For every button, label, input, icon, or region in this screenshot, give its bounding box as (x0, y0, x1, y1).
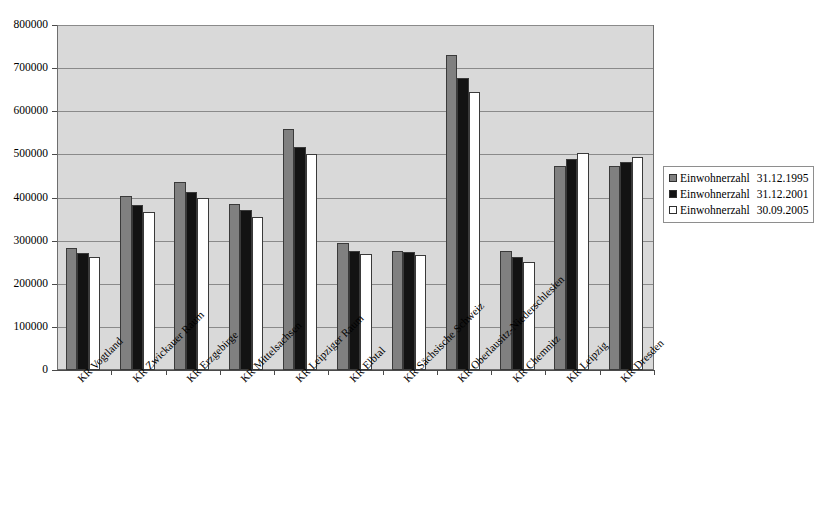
bar-chart: 0100000200000300000400000500000600000700… (0, 0, 834, 515)
bar (197, 198, 209, 370)
x-axis-tick-mark (111, 371, 112, 375)
legend-item: Einwohnerzahl 31.12.2001 (669, 186, 808, 202)
x-axis-tick-mark (600, 371, 601, 375)
bar (186, 192, 198, 370)
legend-date-2005: 30.09.2005 (757, 204, 809, 216)
y-axis-tick-label: 500000 (14, 148, 49, 159)
x-axis-tick-mark (437, 371, 438, 375)
x-axis-tick-mark (274, 371, 275, 375)
x-axis-tick-mark (166, 371, 167, 375)
bar (566, 159, 578, 370)
y-axis-tick-label: 800000 (14, 19, 49, 30)
bar (294, 147, 306, 370)
x-axis-tick-mark (654, 371, 655, 375)
legend-swatch-2001-icon (669, 190, 677, 198)
y-axis-tick-label: 600000 (14, 105, 49, 116)
bar (609, 166, 621, 370)
bar (577, 153, 589, 370)
y-axis-tick-label: 100000 (14, 321, 49, 332)
y-axis-tick-label: 0 (42, 364, 48, 375)
y-axis-tick-label: 400000 (14, 192, 49, 203)
bar (306, 154, 318, 370)
bar (240, 210, 252, 370)
y-axis-tick-label: 700000 (14, 62, 49, 73)
bar (392, 251, 404, 370)
x-axis-tick-mark (491, 371, 492, 375)
legend: Einwohnerzahl 31.12.1995 Einwohnerzahl 3… (663, 166, 814, 223)
bar (132, 205, 144, 370)
x-axis-tick-mark (383, 371, 384, 375)
legend-swatch-2005-icon (669, 206, 677, 214)
bar (337, 243, 349, 370)
bar (252, 217, 264, 370)
legend-date-1995: 31.12.1995 (757, 172, 809, 184)
bar (620, 162, 632, 370)
bar (469, 92, 481, 370)
x-axis-tick-mark (545, 371, 546, 375)
y-axis-tick-label: 300000 (14, 235, 49, 246)
x-axis-tick-mark (220, 371, 221, 375)
legend-swatch-1995-icon (669, 174, 677, 182)
legend-item: Einwohnerzahl 31.12.1995 (669, 170, 808, 186)
bar (632, 157, 644, 370)
legend-label-1995: Einwohnerzahl (680, 172, 750, 184)
legend-date-2001: 31.12.2001 (757, 188, 809, 200)
bar (403, 252, 415, 370)
legend-label-2001: Einwohnerzahl (680, 188, 750, 200)
legend-label-2005: Einwohnerzahl (680, 204, 750, 216)
bar (143, 212, 155, 370)
bar (66, 248, 78, 370)
y-axis-tick-label: 200000 (14, 278, 49, 289)
legend-item: Einwohnerzahl 30.09.2005 (669, 202, 808, 218)
bar (500, 251, 512, 370)
bar (77, 253, 89, 370)
bar (349, 251, 361, 370)
x-axis-tick-mark (328, 371, 329, 375)
